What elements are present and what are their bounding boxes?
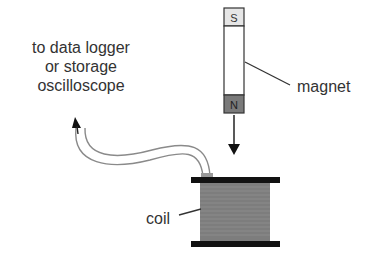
magnet-body	[224, 26, 244, 95]
coil-top-flange	[191, 177, 280, 183]
coil	[191, 177, 280, 247]
coil-label: coil	[146, 209, 170, 228]
destination-label: to data logger or storage oscilloscope	[18, 38, 144, 95]
svg-text:N: N	[230, 99, 238, 111]
magnet-label: magnet	[297, 77, 350, 96]
coil-bottom-flange	[191, 241, 280, 247]
down-arrow-icon	[228, 115, 240, 155]
connecting-wires	[76, 128, 210, 176]
coil-winding	[200, 183, 270, 241]
destination-line-1: to data logger	[18, 38, 144, 57]
svg-text:S: S	[230, 12, 237, 24]
coil-leader-line	[179, 209, 201, 215]
up-arrow-icon	[72, 117, 81, 134]
destination-line-2: or storage	[18, 57, 144, 76]
magnet-leader-line	[245, 62, 290, 85]
destination-line-3: oscilloscope	[18, 76, 144, 95]
bar-magnet: S N	[224, 8, 244, 113]
